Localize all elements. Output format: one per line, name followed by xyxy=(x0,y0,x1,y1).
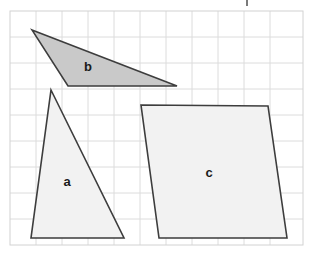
figure-root: Geometric shapes on a square grid abc xyxy=(0,0,312,267)
shape-label-a: a xyxy=(63,174,71,189)
stray-mark xyxy=(246,0,248,6)
marks-group xyxy=(246,0,248,6)
quadrilateral-c xyxy=(141,105,287,238)
shape-label-b: b xyxy=(84,59,92,74)
shape-label-c: c xyxy=(205,165,212,180)
figure-canvas: Geometric shapes on a square grid abc xyxy=(0,0,312,267)
